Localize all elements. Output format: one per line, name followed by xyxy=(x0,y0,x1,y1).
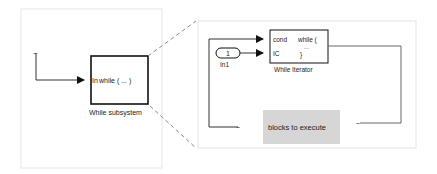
in1-port-number: 1 xyxy=(226,50,230,57)
subsystem-port-label: In xyxy=(92,77,98,84)
iterator-caption: While Iterator xyxy=(274,66,313,73)
iterator-line1: while ( xyxy=(297,36,318,44)
left-panel: ~ In while ( ... ) While subsystem xyxy=(21,9,162,168)
right-panel: ~ 1 In1 cond IC while ( ... } While Iter… xyxy=(198,21,416,148)
feedback-stub-right: ~ xyxy=(356,120,360,127)
iterator-line2: ... xyxy=(304,44,309,50)
in1-label: In1 xyxy=(220,61,229,68)
subsystem-caption: While subsystem xyxy=(89,109,142,117)
port-ic: IC xyxy=(273,50,280,57)
feedback-stub-left: ~ xyxy=(236,124,240,131)
subsystem-content: while ( ... ) xyxy=(98,77,131,85)
blocks-to-execute-label: blocks to execute xyxy=(268,123,326,132)
port-cond: cond xyxy=(273,36,287,43)
while-iterator-block[interactable] xyxy=(270,30,328,63)
signal-source-stub: ~ xyxy=(33,49,38,58)
